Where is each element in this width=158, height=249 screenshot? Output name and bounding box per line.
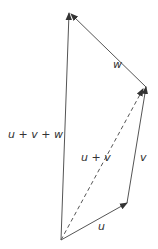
label-u: u (98, 220, 105, 233)
label-v: v (140, 151, 147, 164)
label-u-plus-v-plus-w: u + v + w (8, 128, 63, 141)
vector-u (61, 203, 127, 240)
vector-v (127, 87, 146, 203)
vector-w (71, 14, 146, 87)
label-w: w (113, 58, 122, 71)
label-u-plus-v: u + v (81, 151, 111, 164)
vector-diagram: w u + v + w u + v v u (0, 0, 158, 249)
vector-u-plus-v-plus-w (61, 13, 69, 240)
